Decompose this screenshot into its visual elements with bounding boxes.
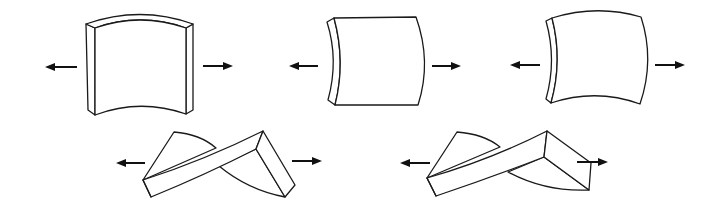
block-right-side bbox=[186, 24, 193, 114]
bent-block-figure bbox=[45, 15, 233, 116]
block-front-face bbox=[95, 20, 186, 115]
left-arrow-icon bbox=[510, 61, 540, 69]
left-arrow-icon bbox=[45, 63, 77, 71]
block-front-face bbox=[551, 11, 648, 104]
curved-side-block-figure bbox=[289, 17, 461, 105]
twisted-strip-1-figure bbox=[116, 131, 322, 197]
right-arrow-icon bbox=[203, 62, 233, 70]
block-front-face bbox=[334, 17, 425, 105]
left-arrow-icon bbox=[116, 159, 145, 167]
left-arrow-icon bbox=[289, 62, 318, 70]
left-arrow-icon bbox=[400, 159, 430, 167]
right-arrow-icon bbox=[292, 157, 322, 165]
deformation-diagram bbox=[0, 0, 716, 208]
twisted-strip-2-figure bbox=[400, 131, 608, 196]
right-arrow-icon bbox=[432, 62, 461, 70]
block-left-side bbox=[86, 24, 95, 115]
warped-block-figure bbox=[510, 11, 685, 104]
right-arrow-icon bbox=[655, 61, 685, 69]
